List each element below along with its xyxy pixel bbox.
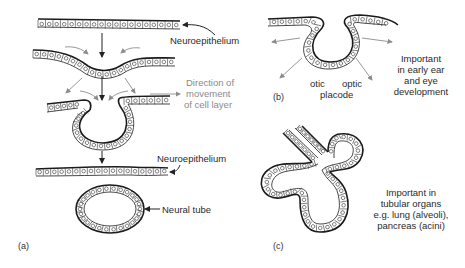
neural-tube: [76, 185, 144, 233]
direction-label-line1: Direction of: [186, 77, 234, 88]
neuroepithelium-bottom-label: Neuroepithelium: [157, 153, 226, 164]
panel-b: otic optic placode Important in early ea…: [268, 15, 449, 102]
epithelial-cell: [165, 21, 171, 29]
epithelial-cell: [75, 20, 81, 28]
optic-label: optic: [342, 78, 362, 89]
epithelial-cell: [103, 70, 109, 78]
epithelial-cell: [73, 168, 79, 175]
epithelial-cell: [58, 168, 64, 175]
neuroepithelium-top-label: Neuroepithelium: [170, 35, 239, 46]
placode-note-line4: development: [394, 86, 449, 97]
epithelial-cell: [153, 168, 159, 175]
tubular-note-line3: e.g. lung (alveoli),: [374, 209, 449, 220]
epithelial-cell: [143, 21, 149, 29]
epithelial-cell: [294, 18, 300, 25]
tubular-note-line1: Important in: [386, 187, 436, 198]
neuroepithelium-flat-sheet: [38, 19, 180, 29]
epithelial-cell: [131, 168, 137, 175]
epithelial-cell: [382, 19, 389, 27]
epithelial-cell: [354, 149, 361, 155]
epithelial-cell: [95, 167, 101, 174]
epithelial-cell: [126, 120, 133, 126]
neuroepithelium-bottom-pointer: [170, 165, 180, 172]
epithelial-cell: [308, 17, 316, 26]
epithelial-cell: [162, 96, 168, 104]
epithelial-cell: [80, 168, 86, 175]
epithelial-cell: [153, 58, 159, 66]
epithelial-cell: [286, 18, 292, 25]
epithelial-cell: [33, 50, 39, 58]
epithelial-cell: [139, 97, 145, 105]
panel-c: Important in tubular organs e.g. lung (a…: [261, 125, 448, 251]
placode-arrow: [280, 58, 302, 78]
movement-arrow: [66, 78, 82, 93]
epithelial-cell: [263, 178, 271, 184]
epithelial-cell: [109, 167, 114, 174]
epithelial-cell: [161, 168, 167, 175]
epithelial-cell: [146, 168, 152, 175]
epithelial-cell: [358, 15, 365, 23]
branched-tubular-gland: [261, 125, 362, 232]
panel-c-label: (c): [273, 241, 284, 251]
epithelial-cell: [51, 168, 57, 175]
panel-b-label: (b): [273, 92, 284, 102]
epithelial-cell: [48, 103, 54, 112]
epithelial-cell: [120, 21, 126, 29]
panel-a: Neuroepithelium Direction of movement of…: [18, 19, 239, 251]
epithelial-cell: [304, 46, 312, 53]
movement-arrow: [125, 78, 135, 93]
placode-invagination: [268, 15, 398, 69]
epithelial-cell: [147, 96, 153, 104]
epithelial-cell: [117, 167, 123, 174]
neuroepithelium-bottom-sheet: [36, 167, 168, 176]
epithelial-cell: [90, 20, 96, 28]
epithelial-cell: [40, 50, 46, 58]
placode-label: placode: [320, 89, 353, 100]
epithelial-cell: [65, 168, 71, 175]
epithelial-cell: [98, 20, 104, 28]
epithelial-cell: [316, 224, 322, 231]
epithelial-cell: [135, 21, 141, 29]
epithelial-cell: [155, 96, 161, 104]
placode-arrow: [272, 38, 300, 42]
direction-label-line2: movement: [186, 88, 231, 99]
epithelial-cell: [150, 21, 156, 29]
movement-arrow: [65, 47, 88, 54]
epithelial-cell: [102, 167, 108, 174]
epithelial-cell: [339, 196, 347, 203]
epithelial-cell: [168, 58, 174, 66]
placode-note-line1: Important: [401, 53, 441, 64]
movement-arrow: [80, 91, 98, 100]
epithelial-cell: [139, 168, 145, 175]
epithelial-cell: [340, 203, 347, 209]
epithelial-cell: [128, 21, 134, 29]
epithelial-cell: [145, 58, 151, 66]
placode-note-line2: in early ear: [398, 64, 445, 75]
direction-label-line3: of cell layer: [184, 99, 232, 110]
epithelial-cell: [300, 196, 307, 202]
epithelial-cell: [124, 167, 130, 174]
epithelial-cell: [302, 18, 308, 25]
placode-arrow: [356, 58, 372, 80]
epithelial-cell: [83, 20, 89, 28]
epithelial-cell: [160, 58, 166, 66]
placode-note-line3: and eye: [404, 75, 438, 86]
epithelial-cell: [172, 21, 178, 29]
epithelial-cell: [87, 167, 93, 174]
neural-groove: [47, 96, 170, 150]
otic-label: otic: [310, 78, 325, 89]
movement-arrow: [121, 48, 140, 53]
epithelial-cell: [300, 203, 307, 209]
morphogenesis-diagram: Neuroepithelium Direction of movement of…: [0, 0, 465, 268]
epithelial-cell: [105, 20, 111, 28]
neuroepithelium-top-pointer: [183, 25, 215, 35]
neural-tube-label: Neural tube: [162, 204, 211, 215]
epithelial-cell: [158, 21, 164, 29]
tubular-note-line2: tubular organs: [381, 198, 442, 209]
tubular-note-line4: pancreas (acini): [377, 220, 445, 231]
placode-arrow: [362, 38, 392, 42]
neuroepithelium-bending-sheet: [33, 50, 175, 79]
epithelial-cell: [113, 21, 119, 29]
epithelial-cell: [338, 210, 346, 217]
panel-a-label: (a): [18, 241, 29, 251]
